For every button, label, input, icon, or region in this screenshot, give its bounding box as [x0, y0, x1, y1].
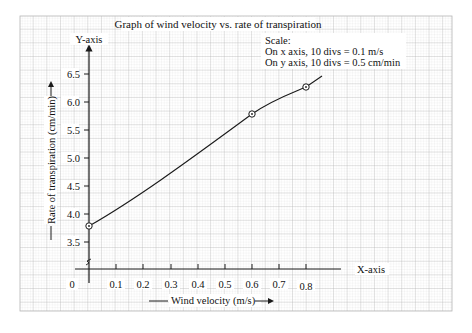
svg-text:0.4: 0.4 [191, 279, 205, 290]
chart: Graph of wind velocity vs. rate of trans… [0, 0, 472, 333]
scale-note: Scale: On x axis, 10 divs = 0.1 m/s On y… [261, 33, 406, 69]
svg-text:5.5: 5.5 [67, 125, 80, 136]
chart-title: Graph of wind velocity vs. rate of trans… [114, 17, 322, 31]
svg-text:0.3: 0.3 [164, 279, 177, 290]
svg-text:0.2: 0.2 [136, 279, 149, 290]
svg-text:4.0: 4.0 [67, 209, 80, 220]
svg-text:3.5: 3.5 [67, 237, 80, 248]
y-axis-name: Y-axis [76, 34, 103, 45]
svg-text:4.5: 4.5 [67, 181, 80, 192]
scale-y: On y axis, 10 divs = 0.5 cm/min [265, 57, 401, 68]
svg-text:0.8: 0.8 [299, 281, 312, 292]
data-point [303, 84, 309, 90]
svg-text:Wind velocity (m/s): Wind velocity (m/s) [171, 295, 256, 307]
y-axis-label: Rate of transpiration (cm/min) [44, 84, 58, 240]
svg-text:6.0: 6.0 [67, 97, 80, 108]
origin-label: 0 [69, 279, 74, 290]
scale-x: On x axis, 10 divs = 0.1 m/s [265, 46, 383, 57]
svg-text:0.1: 0.1 [109, 279, 122, 290]
data-point [86, 223, 92, 229]
svg-text:6.5: 6.5 [67, 69, 80, 80]
data-point [249, 111, 255, 117]
svg-text:0.5: 0.5 [218, 279, 231, 290]
svg-text:5.0: 5.0 [67, 153, 80, 164]
x-axis-name: X-axis [357, 264, 385, 275]
svg-text:0.7: 0.7 [272, 279, 285, 290]
svg-text:Graph of wind velocity vs. rat: Graph of wind velocity vs. rate of trans… [114, 18, 322, 30]
svg-text:0.6: 0.6 [245, 279, 258, 290]
svg-text:Rate of transpiration (cm/min): Rate of transpiration (cm/min) [46, 95, 58, 224]
scale-heading: Scale: [265, 35, 291, 46]
